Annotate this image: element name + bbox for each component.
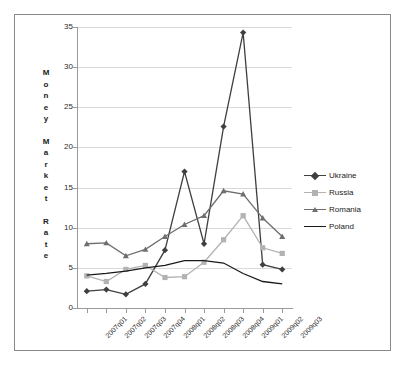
y-axis-tick (73, 228, 77, 229)
y-axis-tick (73, 268, 77, 269)
data-point-marker (220, 123, 226, 129)
x-axis-tick (204, 309, 205, 313)
chart-frame: MoneyMarketRate 05101520253035 2007q0120… (14, 14, 391, 351)
data-point-marker (240, 30, 246, 36)
data-point-marker (260, 245, 265, 250)
data-point-marker (201, 241, 207, 247)
data-point-marker (103, 286, 109, 292)
y-axis-title-letter (39, 125, 53, 136)
x-axis-tick (263, 309, 264, 313)
y-axis-title-letter (39, 205, 53, 216)
y-axis-title: MoneyMarketRate (39, 67, 53, 262)
legend-swatch-icon (304, 222, 326, 232)
x-axis-tick (185, 309, 186, 313)
y-axis-title-letter: n (39, 90, 53, 102)
y-axis-tick-label: 0 (51, 304, 73, 312)
legend-label: Ukraine (329, 171, 357, 180)
y-axis-tick-label: 20 (51, 143, 73, 151)
data-point-marker (162, 234, 168, 239)
data-point-marker (142, 246, 148, 251)
data-point-marker (241, 213, 246, 218)
x-axis-tick (224, 309, 225, 313)
legend-item-poland[interactable]: Poland (304, 218, 388, 235)
y-axis-title-letter: o (39, 79, 53, 91)
data-point-marker (142, 281, 148, 287)
y-axis-title-letter: k (39, 170, 53, 182)
legend-item-ukraine[interactable]: Ukraine (304, 167, 388, 184)
series-line-ukraine (87, 33, 282, 295)
y-axis-line (77, 27, 78, 309)
data-point-marker (182, 274, 187, 279)
y-axis-title-letter: t (39, 239, 53, 251)
data-point-marker (162, 247, 168, 253)
data-point-marker (279, 266, 285, 272)
y-axis-tick (73, 147, 77, 148)
y-axis-tick-label: 25 (51, 103, 73, 111)
plot-area (77, 27, 292, 308)
data-point-marker (123, 291, 129, 297)
x-axis-labels: 2007q012007q022007q032007q042008q012008q… (77, 315, 292, 367)
y-axis-tick-label: 5 (51, 264, 73, 272)
chart-legend: UkraineRussiaRomaniaPoland (304, 167, 388, 235)
y-axis-tick-label: 30 (51, 63, 73, 71)
legend-swatch-icon (304, 171, 326, 181)
series-lines (77, 27, 292, 308)
data-point-marker (84, 273, 89, 278)
legend-swatch-icon (304, 205, 326, 215)
legend-label: Russia (329, 188, 353, 197)
y-axis-title-letter: e (39, 250, 53, 262)
data-point-marker (162, 275, 167, 280)
x-axis-tick (145, 309, 146, 313)
y-axis-tick-label: 10 (51, 224, 73, 232)
y-axis-tick-label: 15 (51, 184, 73, 192)
legend-swatch-icon (304, 188, 326, 198)
legend-label: Poland (329, 222, 354, 231)
y-axis-title-letter: t (39, 193, 53, 205)
legend-label: Romania (329, 205, 361, 214)
data-point-marker (280, 251, 285, 256)
x-axis-tick (126, 309, 127, 313)
legend-item-russia[interactable]: Russia (304, 184, 388, 201)
data-point-marker (221, 237, 226, 242)
data-point-marker (104, 279, 109, 284)
x-axis-tick (243, 309, 244, 313)
x-axis-tick (282, 309, 283, 313)
plot: 05101520253035 2007q012007q022007q032007… (77, 27, 292, 322)
y-axis-tick (73, 188, 77, 189)
series-line-poland (87, 261, 282, 284)
y-axis-title-letter: r (39, 159, 53, 171)
data-point-marker (181, 168, 187, 174)
x-axis-tick (165, 309, 166, 313)
x-axis-tick (87, 309, 88, 313)
y-axis-tick (73, 107, 77, 108)
y-axis-title-letter: y (39, 113, 53, 125)
data-point-marker (84, 288, 90, 294)
y-axis-tick (73, 27, 77, 28)
x-axis-tick (106, 309, 107, 313)
legend-item-romania[interactable]: Romania (304, 201, 388, 218)
y-axis-tick-label: 35 (51, 23, 73, 31)
y-axis-tick (73, 308, 77, 309)
y-axis-tick (73, 67, 77, 68)
data-point-marker (260, 262, 266, 268)
